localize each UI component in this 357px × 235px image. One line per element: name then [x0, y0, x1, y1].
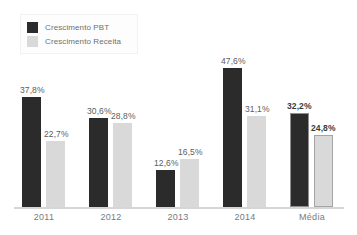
- bar-label-2012-crescimento-pbt: 30,6%: [87, 106, 112, 116]
- bar-label-2013-crescimento-receita: 16,5%: [178, 147, 203, 157]
- bar-label-media-crescimento-receita: 24,8%: [311, 123, 336, 133]
- bar-chart: Crescimento PBT Crescimento Receita 37,8…: [0, 0, 357, 235]
- bar-2011-crescimento-receita: [46, 141, 65, 207]
- x-axis-label-media: Média: [283, 212, 341, 222]
- bar-label-2013-crescimento-pbt: 12,6%: [154, 158, 179, 168]
- bar-label-2012-crescimento-receita: 28,8%: [111, 111, 136, 121]
- bar-label-2011-crescimento-receita: 22,7%: [44, 129, 69, 139]
- x-axis-label-2011: 2011: [15, 212, 73, 222]
- bar-2013-crescimento-receita: [180, 159, 199, 207]
- bar-2012-crescimento-pbt: [89, 118, 108, 207]
- plot-area: 37,8% 22,7% 30,6% 28,8% 12,6% 16,5% 47,6…: [0, 0, 357, 235]
- bar-2014-crescimento-pbt: [223, 68, 242, 207]
- bar-label-2011-crescimento-pbt: 37,8%: [20, 85, 45, 95]
- x-axis-line: [14, 207, 344, 209]
- x-axis-label-2013: 2013: [149, 212, 207, 222]
- bar-2013-crescimento-pbt: [156, 170, 175, 207]
- bar-2012-crescimento-receita: [113, 123, 132, 207]
- bar-label-2014-crescimento-pbt: 47,6%: [221, 56, 246, 66]
- bar-label-media-crescimento-pbt: 32,2%: [287, 101, 312, 111]
- x-axis-label-2012: 2012: [82, 212, 140, 222]
- bar-media-crescimento-pbt: [290, 113, 309, 207]
- bar-media-crescimento-receita: [314, 135, 333, 207]
- x-axis-label-2014: 2014: [216, 212, 274, 222]
- bar-2011-crescimento-pbt: [22, 97, 41, 207]
- bar-2014-crescimento-receita: [247, 116, 266, 207]
- bar-label-2014-crescimento-receita: 31,1%: [245, 104, 270, 114]
